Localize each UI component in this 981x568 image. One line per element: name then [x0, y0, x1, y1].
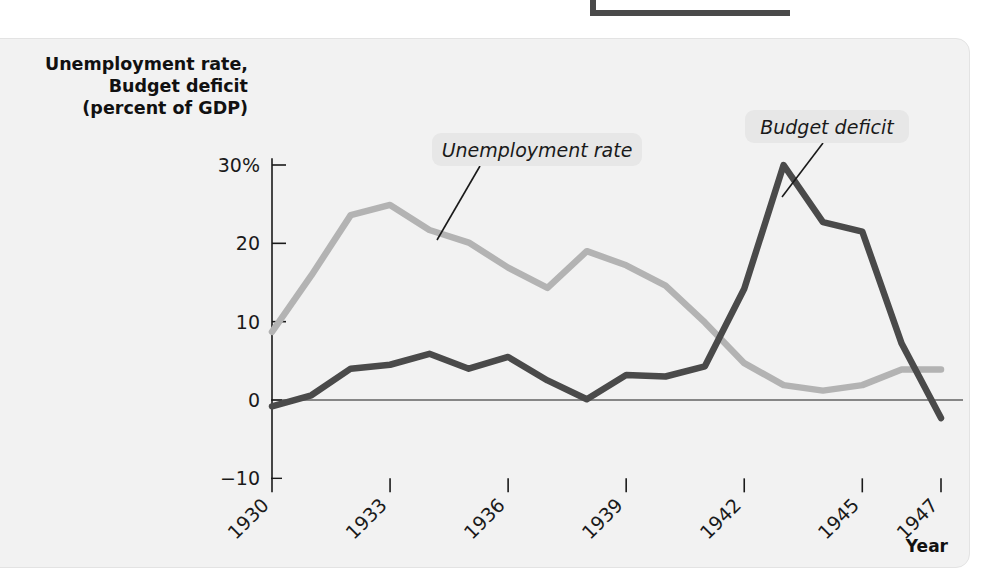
y-tick-label: −10: [220, 467, 260, 489]
x-ticks-group: 1930193319361939194219451947: [223, 478, 942, 543]
x-tick-label: 1939: [577, 494, 627, 544]
series-line-unemployment-rate: [272, 205, 941, 391]
y-axis-title-line-3: (percent of GDP): [82, 98, 248, 118]
y-tick-label: 0: [248, 389, 260, 411]
series-group: [272, 165, 941, 418]
x-tick-label: 1936: [459, 494, 509, 544]
x-axis-title: Year: [905, 536, 949, 556]
y-axis-title-line-2: Budget deficit: [109, 76, 248, 96]
y-axis-title: Unemployment rate, Budget deficit (perce…: [45, 54, 248, 118]
x-tick-label: 1942: [695, 494, 745, 544]
y-axis-title-line-1: Unemployment rate,: [45, 54, 248, 74]
x-tick-label: 1930: [223, 494, 273, 544]
x-tick-label: 1933: [341, 494, 391, 544]
annotations-group: Unemployment rateBudget deficit: [432, 110, 909, 240]
y-tick-label: 10: [236, 311, 260, 333]
x-tick-label: 1945: [813, 494, 863, 544]
y-tick-label: 30%: [218, 154, 260, 176]
y-tick-label: 20: [236, 232, 260, 254]
annotation-label: Unemployment rate: [442, 139, 633, 161]
annotation-label: Budget deficit: [760, 116, 895, 138]
annotation-leader-line: [437, 166, 480, 240]
series-line-budget-deficit: [272, 165, 941, 418]
